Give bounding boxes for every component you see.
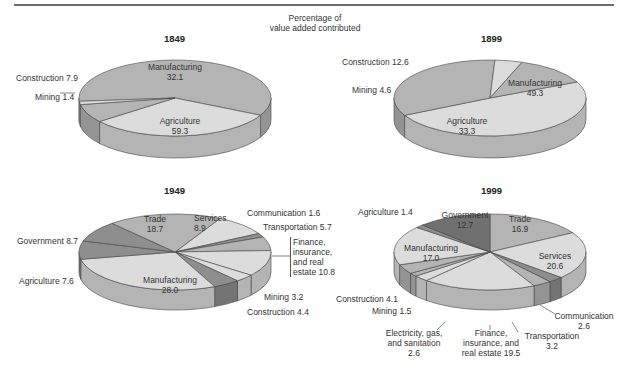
label-1899-mining: Mining 4.6	[352, 85, 391, 95]
label-value: 16.9	[500, 224, 540, 234]
label-text: Manufacturing	[135, 275, 205, 285]
label-1999-government: Government 12.7	[437, 210, 493, 230]
label-text: Services	[194, 213, 227, 223]
year-title-1999: 1999	[481, 185, 502, 196]
label-value: 59.3	[150, 126, 210, 136]
label-1899-construction: Construction 12.6	[342, 57, 409, 67]
label-text: Manufacturing	[140, 62, 210, 72]
label-text: Services	[530, 251, 580, 261]
label-1999-communication: Communication 2.6	[552, 311, 616, 331]
label-line: Finance,	[293, 237, 335, 247]
label-1999-mining: Mining 1.5	[372, 306, 411, 316]
label-line: estate 10.8	[293, 267, 335, 277]
label-line: insurance, and	[453, 338, 529, 348]
label-text: Trade	[135, 214, 175, 224]
label-1849-mining: Mining 1.4	[35, 92, 74, 102]
label-line: Electricity, gas,	[380, 328, 448, 338]
label-1949-construction: Construction 4.4	[247, 307, 309, 317]
label-value: 20.6	[530, 261, 580, 271]
label-value: 18.7	[135, 224, 175, 234]
label-line: real estate 19.5	[453, 348, 529, 358]
label-value: 32.1	[140, 72, 210, 82]
label-value: 33.3	[437, 126, 497, 136]
label-line: Communication	[552, 311, 616, 321]
label-1949-trade: Trade 18.7	[135, 214, 175, 234]
label-text: Manufacturing	[396, 243, 466, 253]
label-1949-communication: Communication 1.6	[247, 208, 320, 218]
label-1849-manufacturing: Manufacturing 32.1	[140, 62, 210, 82]
year-title-1849: 1849	[164, 33, 185, 44]
label-1999-manufacturing: Manufacturing 17.0	[396, 243, 466, 263]
label-1849-agriculture: Agriculture 59.3	[150, 116, 210, 136]
year-title-1899: 1899	[481, 33, 502, 44]
label-1949-transportation: Transportation 5.7	[263, 222, 332, 232]
label-1999-electricity: Electricity, gas, and sanitation 2.6	[380, 328, 448, 358]
label-1999-services: Services 20.6	[530, 251, 580, 271]
label-1949-finance: Finance, insurance, and real estate 10.8	[290, 237, 335, 277]
label-line: 3.2	[521, 341, 583, 351]
label-line: and sanitation	[380, 338, 448, 348]
year-title-1949: 1949	[164, 185, 185, 196]
label-line: Transportation	[521, 331, 583, 341]
label-line: 2.6	[552, 321, 616, 331]
label-1949-manufacturing: Manufacturing 28.0	[135, 275, 205, 295]
label-1999-agriculture: Agriculture 1.4	[358, 207, 413, 217]
label-1999-trade: Trade 16.9	[500, 214, 540, 234]
label-line: Finance,	[453, 328, 529, 338]
label-1999-construction: Construction 4.1	[336, 294, 398, 304]
label-line: 2.6	[380, 348, 448, 358]
label-1899-agriculture: Agriculture 33.3	[437, 116, 497, 136]
label-line: insurance,	[293, 247, 335, 257]
label-value: 49.3	[500, 88, 570, 98]
label-value: 8.9	[194, 223, 227, 233]
label-1899-manufacturing: Manufacturing 49.3	[500, 78, 570, 98]
label-text: Trade	[500, 214, 540, 224]
label-value: 17.0	[396, 253, 466, 263]
label-1949-agriculture: Agriculture 7.6	[19, 276, 74, 286]
label-line: and real	[293, 257, 335, 267]
label-value: 28.0	[135, 285, 205, 295]
label-text: Government	[437, 210, 493, 220]
label-1949-services: Services 8.9	[194, 213, 227, 233]
label-1949-mining: Mining 3.2	[264, 292, 303, 302]
label-text: Agriculture	[150, 116, 210, 126]
pie-charts	[0, 0, 628, 372]
label-1949-government: Government 8.7	[17, 236, 78, 246]
label-value: 12.7	[437, 220, 493, 230]
label-text: Agriculture	[437, 116, 497, 126]
label-1849-construction: Construction 7.9	[16, 73, 78, 83]
label-1999-finance: Finance, insurance, and real estate 19.5	[453, 328, 529, 358]
label-1999-transportation: Transportation 3.2	[521, 331, 583, 351]
label-text: Manufacturing	[500, 78, 570, 88]
